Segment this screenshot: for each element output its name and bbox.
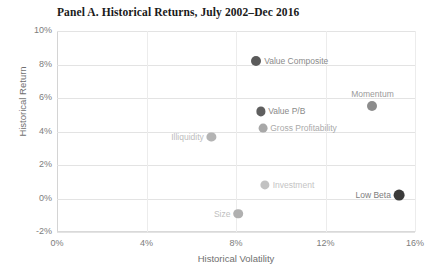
x-tick-label: 4% [127,238,167,248]
data-point-label: Illiquidity [171,132,204,142]
data-point-label: Gross Profitability [270,123,337,133]
x-tick-label: 12% [306,238,346,248]
data-point-marker[interactable] [367,101,377,111]
x-tick-label: 16% [395,238,435,248]
chart-title: Panel A. Historical Returns, July 2002–D… [57,6,299,18]
scatter-chart: Panel A. Historical Returns, July 2002–D… [0,0,441,279]
gridline-vertical [415,31,416,232]
y-axis-title: Historical Return [17,42,28,162]
data-point-label: Value Composite [264,56,328,66]
x-tick-label: 8% [216,238,256,248]
x-axis-title: Historical Volatility [57,253,415,264]
y-tick-label: 0% [18,193,52,203]
x-tick-label: 0% [37,238,77,248]
data-point-marker[interactable] [233,209,243,219]
data-point-label: Investment [273,180,315,190]
gridline-vertical [147,31,148,232]
data-point-marker[interactable] [251,56,261,66]
data-point-label: Size [214,209,231,219]
gridline-vertical [236,31,237,232]
data-point-marker[interactable] [394,190,405,201]
data-point-marker[interactable] [258,124,267,133]
y-tick-label: 10% [18,25,52,35]
data-point-label: Momentum [351,89,394,99]
y-tick-label: -2% [18,226,52,236]
data-point-label: Low Beta [355,190,390,200]
data-point-label: Value P/B [268,106,305,116]
gridline-horizontal [57,232,415,233]
plot-area [57,31,415,232]
